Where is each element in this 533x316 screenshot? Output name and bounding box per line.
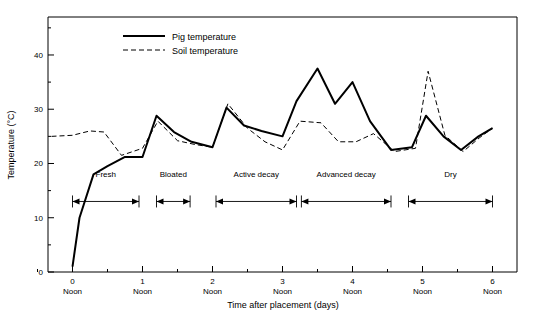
legend-label-pig: Pig temperature <box>172 32 236 42</box>
x-tick-label-5: 5 <box>420 277 425 286</box>
x-tick-noon-label-2: Noon <box>203 287 222 296</box>
decomposition-stage-markers: FreshBloatedActive decayAdvanced decayDr… <box>73 170 493 207</box>
plot-border <box>48 17 517 272</box>
y-tick-label-2: 20 <box>34 159 43 168</box>
data-series <box>52 69 493 267</box>
stage-arrowhead-left <box>409 198 416 204</box>
chart-legend: Pig temperatureSoil temperature <box>123 32 238 56</box>
stage-arrowhead-right <box>486 198 493 204</box>
x-tick-label-3: 3 <box>280 277 285 286</box>
stage-arrowhead-left <box>157 198 164 204</box>
y-tick-label-0: 0 <box>39 268 44 277</box>
series-pig-temperature <box>73 69 493 267</box>
x-axis-title: Time after placement (days) <box>227 300 339 310</box>
stage-label: Dry <box>444 170 456 179</box>
x-tick-noon-label-1: Noon <box>133 287 152 296</box>
x-tick-label-6: 6 <box>490 277 495 286</box>
plot-frame <box>48 17 517 272</box>
stage-marker-dry: Dry <box>409 170 493 207</box>
stage-label: Active decay <box>234 170 279 179</box>
stage-marker-bloated: Bloated <box>157 170 191 207</box>
y-tick-label-1: 10 <box>34 214 43 223</box>
stage-marker-active-decay: Active decay <box>216 170 297 207</box>
temperature-line-chart: 0Noon1Noon2Noon3Noon4Noon5Noon6Noon01020… <box>0 0 533 316</box>
stage-arrowhead-left <box>216 198 223 204</box>
stage-arrowhead-right <box>132 198 139 204</box>
x-tick-label-2: 2 <box>210 277 215 286</box>
stage-marker-fresh: Fresh <box>73 170 140 207</box>
x-tick-label-1: 1 <box>140 277 145 286</box>
x-tick-noon-label-4: Noon <box>343 287 362 296</box>
stage-arrowhead-left <box>73 198 80 204</box>
stage-arrowhead-right <box>384 198 391 204</box>
stage-label: Bloated <box>160 170 187 179</box>
y-tick-label-3: 30 <box>34 105 43 114</box>
stage-arrowhead-right <box>183 198 190 204</box>
stage-arrowhead-left <box>301 198 308 204</box>
stage-marker-advanced-decay: Advanced decay <box>301 170 391 207</box>
x-tick-label-4: 4 <box>350 277 355 286</box>
x-tick-noon-label-6: Noon <box>483 287 502 296</box>
figure-container: 0Noon1Noon2Noon3Noon4Noon5Noon6Noon01020… <box>0 0 533 316</box>
x-tick-noon-label-3: Noon <box>273 287 292 296</box>
axis-ticks <box>38 28 493 272</box>
y-axis-title: Temperature (°C) <box>6 110 16 179</box>
x-tick-label-0: 0 <box>70 277 75 286</box>
x-tick-noon-label-5: Noon <box>413 287 432 296</box>
stage-arrowhead-right <box>290 198 297 204</box>
y-tick-label-4: 40 <box>34 51 43 60</box>
legend-label-soil: Soil temperature <box>172 46 238 56</box>
x-tick-noon-label-0: Noon <box>63 287 82 296</box>
stage-label: Advanced decay <box>317 170 376 179</box>
series-soil-temperature <box>52 71 493 155</box>
